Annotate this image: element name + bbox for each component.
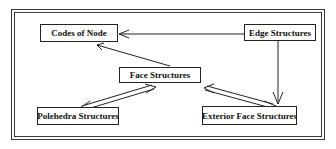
node-codes-of-node: Codes of Node: [40, 24, 118, 42]
node-exterior-face-structures: Exterior Face Structures: [202, 106, 297, 125]
arrow-edge-to-exterior: [273, 41, 283, 104]
node-face-structures: Face Structures: [119, 67, 201, 83]
arrow-edge-to-codes: [119, 30, 244, 38]
node-label: Edge Structures: [249, 28, 311, 38]
node-label: Codes of Node: [51, 28, 107, 38]
double-arrow-face-exterior: [204, 84, 276, 108]
node-label: Exterior Face Structures: [202, 111, 297, 121]
arrow-face-to-codes: [97, 43, 170, 66]
node-edge-structures: Edge Structures: [244, 24, 316, 41]
node-polehedra-structures: Polehedra Structures: [37, 107, 119, 125]
node-label: Polehedra Structures: [37, 111, 119, 121]
node-label: Face Structures: [130, 70, 191, 80]
